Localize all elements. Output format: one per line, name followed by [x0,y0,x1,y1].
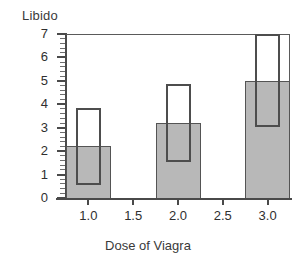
y-minor-tick-mark [60,76,65,77]
y-minor-tick-mark [60,48,65,49]
y-tick-label: 3 [18,121,48,134]
x-tick-mark [222,200,224,205]
y-tick-label: 2 [18,144,48,157]
y-minor-tick-mark [60,85,65,86]
y-tick-mark [57,197,65,199]
error-box-lower [76,146,101,185]
x-tick-mark [267,200,269,205]
x-tick-label: 2.0 [158,208,198,223]
x-tick-mark [132,200,134,205]
y-tick-mark [57,80,65,82]
x-tick-label: 1.5 [113,208,153,223]
y-axis-title: Libido [22,8,58,23]
y-tick-mark [57,103,65,105]
x-tick-mark [177,200,179,205]
chart-figure: Libido 01234567 1.01.52.02.53.0 Dose of … [0,0,296,272]
y-minor-tick-mark [60,160,65,161]
y-tick-mark [57,127,65,129]
y-minor-tick-mark [60,132,65,133]
y-minor-tick-mark [60,165,65,166]
y-minor-tick-mark [60,146,65,147]
y-minor-tick-mark [60,71,65,72]
y-minor-tick-mark [60,141,65,142]
error-box-upper [255,34,280,81]
y-tick-label: 0 [18,191,48,204]
y-minor-tick-mark [60,99,65,100]
x-tick-label: 3.0 [248,208,288,223]
y-minor-tick-mark [60,123,65,124]
y-minor-tick-mark [60,90,65,91]
y-tick-label: 1 [18,168,48,181]
x-axis-spine [56,198,292,200]
y-tick-mark [57,174,65,176]
x-tick-mark [87,200,89,205]
y-minor-tick-mark [60,137,65,138]
y-minor-tick-mark [60,38,65,39]
y-minor-tick-mark [60,193,65,194]
plot-area [66,34,290,198]
y-minor-tick-mark [60,169,65,170]
y-minor-tick-mark [60,66,65,67]
y-minor-tick-mark [60,188,65,189]
y-tick-label: 6 [18,50,48,63]
y-minor-tick-mark [60,113,65,114]
y-tick-mark [57,56,65,58]
y-minor-tick-mark [60,43,65,44]
x-tick-label: 1.0 [68,208,108,223]
y-minor-tick-mark [60,108,65,109]
y-minor-tick-mark [60,94,65,95]
y-minor-tick-mark [60,155,65,156]
x-tick-label: 2.5 [203,208,243,223]
error-box-lower [255,81,280,127]
y-minor-tick-mark [60,52,65,53]
y-tick-label: 5 [18,74,48,87]
x-axis-title: Dose of Viagra [0,238,296,253]
error-box-upper [76,108,101,147]
y-minor-tick-mark [60,62,65,63]
error-box-lower [166,123,191,162]
y-minor-tick-mark [60,118,65,119]
y-tick-mark [57,33,65,35]
error-box-upper [166,84,191,123]
y-minor-tick-mark [60,183,65,184]
y-tick-mark [57,150,65,152]
y-tick-label: 7 [18,27,48,40]
y-tick-label: 4 [18,97,48,110]
y-minor-tick-mark [60,179,65,180]
